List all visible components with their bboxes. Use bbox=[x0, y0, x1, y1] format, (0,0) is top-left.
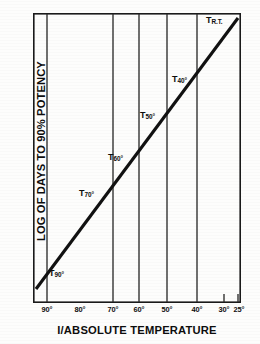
point-label-t40-sub: 40° bbox=[178, 77, 187, 84]
x-tick-25: 25° bbox=[234, 305, 245, 314]
x-tick-40: 40° bbox=[192, 305, 203, 314]
x-tick-60: 60° bbox=[134, 305, 145, 314]
point-label-t70: T70° bbox=[79, 188, 94, 198]
point-label-trt-base: T bbox=[206, 15, 212, 25]
point-label-t90-base: T bbox=[49, 268, 55, 278]
point-label-t50-base: T bbox=[140, 110, 146, 120]
x-axis-title: I/ABSOLUTE TEMPERATURE bbox=[33, 324, 241, 336]
axis-ticks bbox=[224, 294, 238, 302]
x-tick-30: 30° bbox=[219, 305, 230, 314]
x-axis-tick-labels: 90° 80° 70° 60° 50° 40° 30° 25° bbox=[0, 305, 260, 319]
point-label-t40-base: T bbox=[172, 74, 178, 84]
x-tick-90: 90° bbox=[42, 305, 53, 314]
chart-svg bbox=[33, 13, 241, 303]
point-label-t50: T50° bbox=[140, 110, 155, 120]
plot-area bbox=[33, 13, 241, 303]
point-label-t50-sub: 50° bbox=[146, 113, 155, 120]
point-label-trt: TR.T. bbox=[206, 15, 222, 25]
point-label-t40: T40° bbox=[172, 74, 187, 84]
point-label-trt-sub: R.T. bbox=[212, 18, 223, 25]
point-label-t60: T60° bbox=[108, 152, 123, 162]
point-label-t70-base: T bbox=[79, 188, 85, 198]
point-label-t70-sub: 70° bbox=[85, 191, 94, 198]
point-label-t60-sub: 60° bbox=[114, 155, 123, 162]
x-tick-70: 70° bbox=[108, 305, 119, 314]
point-label-t90: T90° bbox=[49, 268, 64, 278]
x-tick-50: 50° bbox=[162, 305, 173, 314]
point-label-t60-base: T bbox=[108, 152, 114, 162]
point-label-t90-sub: 90° bbox=[55, 271, 64, 278]
x-tick-80: 80° bbox=[75, 305, 86, 314]
data-line-series-1 bbox=[36, 18, 238, 289]
figure-container: LOG OF DAYS TO 90% POTENCY 90° bbox=[0, 0, 260, 344]
